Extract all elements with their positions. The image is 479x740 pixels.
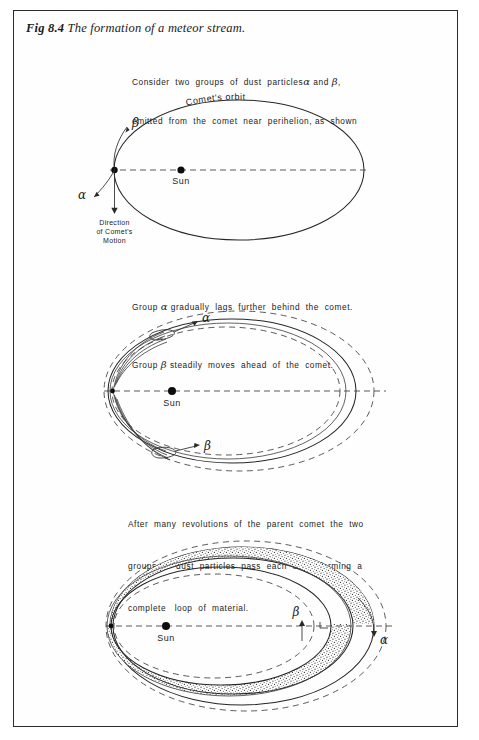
direction-label-line-1: Direction: [99, 219, 129, 226]
perihelion-marker: [110, 389, 115, 394]
direction-label-line-2: of Comet's: [96, 228, 132, 235]
beta-label: β: [203, 439, 211, 453]
figure-caption-text: The formation of a meteor stream.: [68, 21, 246, 35]
lower-text-line-1: After many revolutions of the parent com…: [128, 517, 364, 531]
alpha-dust-stream: [114, 330, 175, 389]
direction-label-line-3: Motion: [103, 237, 126, 244]
beta-leader-line: [176, 446, 197, 451]
alpha-label: α: [78, 188, 86, 202]
perihelion-marker: [109, 624, 114, 629]
sun-marker: [168, 387, 176, 395]
sun-label: Sun: [163, 398, 181, 408]
figure-caption: Fig 8.4 The formation of a meteor stream…: [26, 21, 245, 36]
figure-number: Fig 8.4: [26, 21, 64, 35]
sun-label: Sun: [172, 176, 190, 186]
beta-label: β: [292, 605, 300, 619]
beta-arrowhead: [194, 443, 200, 448]
sun-marker: [162, 622, 170, 630]
motion-direction-arrowhead: [111, 208, 117, 214]
figure-border-frame: Fig 8.4 The formation of a meteor stream…: [13, 10, 458, 727]
panel-complete-loop: Sun β α: [14, 536, 457, 726]
sun-label: Sun: [157, 633, 175, 643]
sun-marker: [177, 166, 184, 173]
alpha-label: α: [380, 633, 388, 647]
panel-separating-groups: Sun α β: [14, 299, 457, 484]
panel-initial-emission: Sun β α Direction of Comet's Motion Come…: [14, 77, 457, 252]
alpha-label: α: [202, 311, 210, 325]
beta-label: β: [131, 116, 139, 130]
comet-orbit-label: Comet's orbit: [185, 92, 246, 108]
